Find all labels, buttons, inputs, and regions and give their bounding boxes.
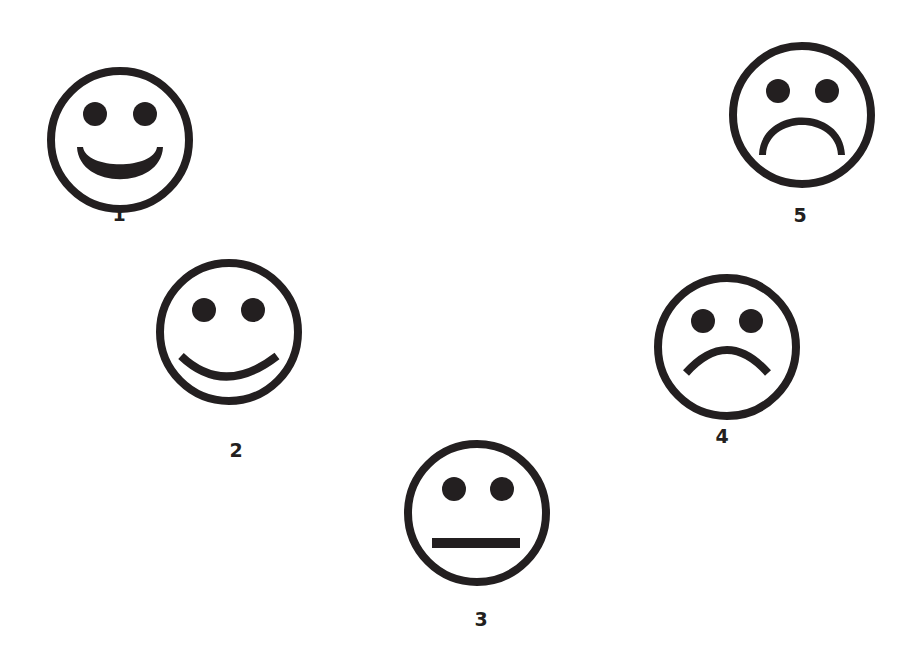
face-outline <box>51 71 189 209</box>
mouth <box>77 147 163 179</box>
face-outline <box>733 46 871 184</box>
right-eye <box>133 102 157 126</box>
right-eye <box>815 79 839 103</box>
left-eye <box>691 309 715 333</box>
left-eye <box>442 477 466 501</box>
face-outline <box>408 444 546 582</box>
mouth <box>686 350 768 373</box>
left-eye <box>766 79 790 103</box>
left-eye <box>83 102 107 126</box>
face-label-1: 1 <box>112 205 125 224</box>
mouth <box>432 538 520 548</box>
left-eye <box>192 298 216 322</box>
happy-face-icon <box>160 263 298 401</box>
right-eye <box>490 477 514 501</box>
very-sad-face-icon <box>733 46 871 184</box>
face-label-5: 5 <box>793 206 806 225</box>
sad-face-icon <box>658 278 796 416</box>
face-scale-diagram <box>0 0 917 666</box>
neutral-face-icon <box>408 444 546 582</box>
mouth <box>759 118 845 156</box>
very-happy-face-icon <box>51 71 189 209</box>
right-eye <box>739 309 763 333</box>
face-label-3: 3 <box>474 610 487 629</box>
mouth <box>181 356 277 377</box>
face-label-2: 2 <box>229 441 242 460</box>
right-eye <box>241 298 265 322</box>
face-label-4: 4 <box>715 427 728 446</box>
